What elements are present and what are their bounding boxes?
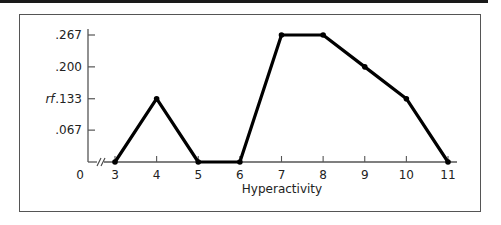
data-point [195, 159, 201, 165]
data-line [115, 35, 448, 162]
data-point [320, 32, 326, 38]
data-point [237, 159, 243, 165]
data-point [154, 96, 160, 102]
y-tick-label-zero: 0 [76, 168, 84, 182]
data-point [362, 64, 368, 70]
x-tick-label: 3 [111, 168, 119, 182]
frequency-polygon-chart: .067.133.200.2670rf34567891011Hyperactiv… [0, 0, 501, 225]
x-tick-label: 4 [153, 168, 161, 182]
data-point [445, 159, 451, 165]
x-tick-label: 7 [278, 168, 286, 182]
y-tick-label: .067 [55, 123, 82, 137]
x-tick-label: 6 [236, 168, 244, 182]
y-tick-label: .267 [55, 28, 82, 42]
y-tick-label: .133 [55, 92, 82, 106]
data-point [279, 32, 285, 38]
x-tick-label: 10 [399, 168, 414, 182]
y-tick-label: .200 [55, 60, 82, 74]
x-tick-label: 5 [194, 168, 202, 182]
x-tick-label: 8 [319, 168, 327, 182]
data-point [112, 159, 118, 165]
x-tick-label: 9 [361, 168, 369, 182]
axis-break-mark [97, 158, 101, 166]
x-axis-title: Hyperactivity [242, 182, 322, 196]
x-tick-label: 11 [440, 168, 455, 182]
data-point [404, 96, 410, 102]
